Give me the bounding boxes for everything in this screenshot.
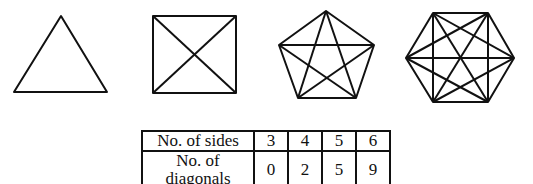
square-figure [153, 16, 236, 93]
pentagon-figure [279, 11, 374, 98]
row-label: No. of diagonals [142, 151, 254, 184]
table-cell: 0 [254, 151, 288, 184]
table-cell: 2 [288, 151, 322, 184]
table-cell: 6 [356, 131, 390, 151]
sides-diagonals-table: No. of sides 3 4 5 6 No. of diagonals 0 … [141, 130, 391, 184]
table-cell: 5 [322, 151, 356, 184]
table-cell: 9 [356, 151, 390, 184]
polygon-figures [0, 0, 533, 125]
hexagon-figure [406, 13, 514, 102]
table-cell: 4 [288, 131, 322, 151]
triangle-figure [14, 16, 107, 92]
table-row-sides: No. of sides 3 4 5 6 [142, 131, 390, 151]
table-cell: 5 [322, 131, 356, 151]
table-row-diagonals: No. of diagonals 0 2 5 9 [142, 151, 390, 184]
table-cell: 3 [254, 131, 288, 151]
row-label: No. of sides [142, 131, 254, 151]
